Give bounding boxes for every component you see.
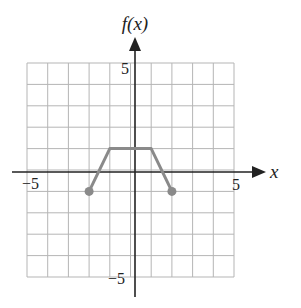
axes: [12, 37, 266, 297]
grid: [27, 63, 234, 277]
closed-endpoint-dot: [167, 187, 176, 196]
y-axis-arrow-icon: [129, 37, 141, 51]
y-tick-min: −5: [108, 270, 125, 287]
y-tick-max: 5: [121, 60, 129, 77]
coordinate-plane: f(x) x −5 5 5 −5: [0, 0, 301, 308]
x-tick-max: 5: [232, 176, 240, 193]
y-axis-label: f(x): [122, 13, 148, 35]
x-axis-label: x: [269, 161, 279, 182]
x-tick-min: −5: [22, 175, 39, 192]
closed-endpoint-dot: [85, 187, 94, 196]
x-axis-arrow-icon: [252, 166, 266, 178]
